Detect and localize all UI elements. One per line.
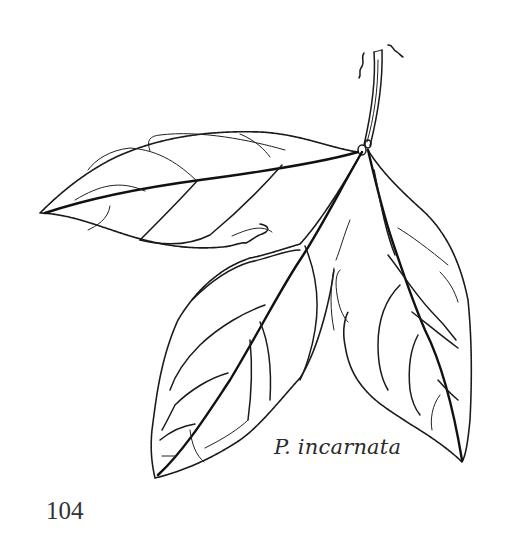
passionflower-leaf-drawing xyxy=(0,0,510,553)
species-caption: P. incarnata xyxy=(274,435,401,459)
petiole xyxy=(358,45,403,155)
page-number: 104 xyxy=(46,497,84,525)
left-lobe xyxy=(40,132,358,248)
middle-lobe xyxy=(151,152,362,478)
book-page: P. incarnata 104 xyxy=(0,0,510,553)
right-lobe xyxy=(331,150,471,462)
